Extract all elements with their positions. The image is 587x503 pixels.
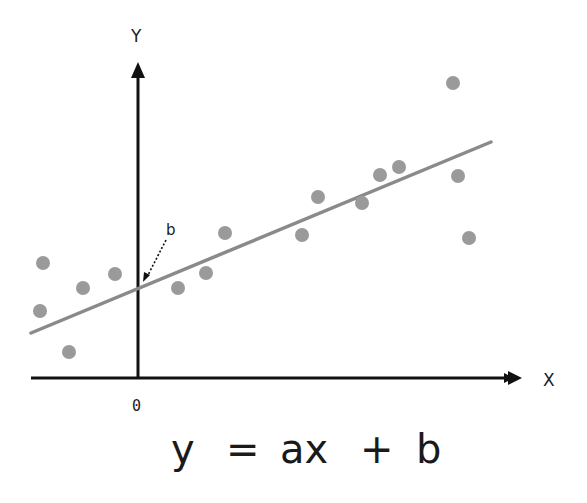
data-point <box>446 76 460 90</box>
data-point <box>311 190 325 204</box>
data-point <box>33 304 47 318</box>
data-point <box>355 196 369 210</box>
equation-y: y <box>171 426 195 472</box>
data-point <box>76 281 90 295</box>
origin-label: 0 <box>132 397 141 415</box>
data-point <box>108 267 122 281</box>
data-point <box>451 169 465 183</box>
data-point <box>199 266 213 280</box>
y-axis-arrow-icon <box>131 62 145 78</box>
data-point <box>171 281 185 295</box>
x-axis-label: X <box>543 370 555 390</box>
regression-line <box>31 142 491 333</box>
regression-diagram: Y X 0 b y = ax + b <box>0 0 587 503</box>
data-point <box>462 231 476 245</box>
equation-b: b <box>416 426 441 472</box>
equation-ax: ax <box>280 426 328 472</box>
equation-plus: + <box>360 426 394 472</box>
intercept-pointer-arrow <box>147 240 166 277</box>
data-point <box>392 160 406 174</box>
data-point <box>36 256 50 270</box>
equation-equals: = <box>226 426 260 472</box>
data-point <box>373 168 387 182</box>
data-points <box>33 76 476 359</box>
equation: y = ax + b <box>171 426 441 472</box>
axes <box>31 62 522 385</box>
y-axis-label: Y <box>130 26 142 46</box>
intercept-label: b <box>166 221 176 239</box>
data-point <box>295 228 309 242</box>
data-point <box>62 345 76 359</box>
data-point <box>218 226 232 240</box>
x-axis-arrow-icon <box>508 371 522 385</box>
